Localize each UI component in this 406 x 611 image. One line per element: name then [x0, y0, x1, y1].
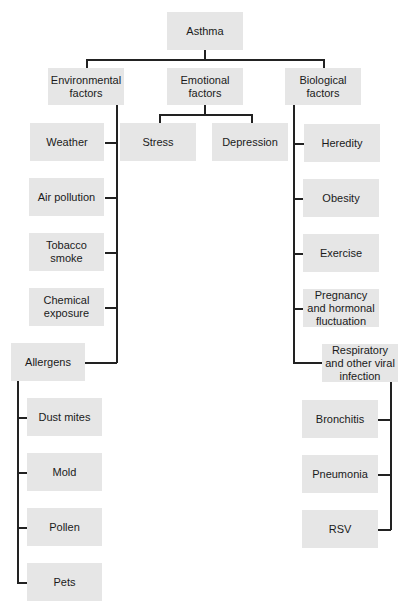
connector-line: [293, 253, 303, 255]
node-heredity: Heredity: [304, 124, 380, 162]
connector-line: [293, 143, 304, 145]
connector-line: [293, 308, 303, 310]
node-biological-factors: Biological factors: [285, 68, 361, 105]
connector-line: [17, 417, 27, 419]
connector-line: [17, 472, 27, 474]
node-pregnancy-hormonal: Pregnancy and hormonal fluctuation: [303, 289, 379, 327]
node-exercise: Exercise: [303, 234, 379, 272]
connector-line: [105, 197, 117, 199]
node-depression: Depression: [212, 123, 288, 161]
connector-line: [159, 114, 252, 116]
node-tobacco-smoke: Tobacco smoke: [29, 233, 104, 271]
connector-line: [17, 381, 19, 583]
connector-line: [378, 419, 391, 421]
node-bronchitis: Bronchitis: [302, 400, 378, 438]
node-emotional-factors: Emotional factors: [167, 68, 243, 105]
connector-line: [378, 529, 391, 531]
node-pets: Pets: [27, 563, 102, 601]
connector-line: [86, 59, 324, 61]
node-air-pollution: Air pollution: [29, 178, 104, 216]
node-rsv: RSV: [302, 510, 378, 548]
connector-line: [86, 59, 88, 68]
connector-line: [378, 474, 391, 476]
connector-line: [323, 59, 325, 68]
node-mold: Mold: [27, 453, 102, 491]
node-obesity: Obesity: [303, 179, 379, 217]
node-environmental-factors: Environmental factors: [48, 68, 124, 105]
connector-line: [17, 582, 27, 584]
node-stress: Stress: [120, 123, 196, 161]
node-dust-mites: Dust mites: [27, 398, 102, 436]
node-pneumonia: Pneumonia: [302, 455, 378, 493]
connector-line: [159, 114, 161, 123]
connector-line: [204, 105, 206, 114]
connector-line: [105, 142, 117, 144]
node-allergens: Allergens: [11, 343, 85, 381]
node-weather: Weather: [30, 123, 104, 161]
connector-line: [17, 527, 27, 529]
connector-line: [390, 382, 392, 530]
connector-line: [116, 105, 118, 363]
node-asthma: Asthma: [167, 12, 243, 50]
connector-line: [251, 114, 253, 123]
node-pollen: Pollen: [27, 508, 102, 546]
connector-line: [105, 307, 117, 309]
connector-line: [85, 362, 117, 364]
connector-line: [105, 252, 117, 254]
node-chemical-exposure: Chemical exposure: [29, 288, 104, 326]
connector-line: [293, 362, 322, 364]
connector-line: [293, 198, 303, 200]
node-respiratory-viral-infection: Respiratory and other viral infection: [322, 344, 398, 382]
